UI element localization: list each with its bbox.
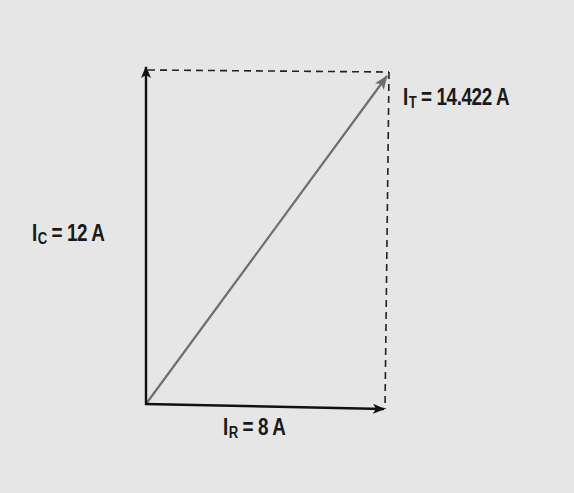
ic-label-symbol: I [32,220,37,246]
ir-label: IR = 8 A [223,414,285,441]
it-label: IT = 14.422 A [403,84,509,111]
dashed-right-line [385,72,389,409]
ic-label-value: = 12 A [47,220,105,246]
it-label-subscript: T [409,94,417,111]
resultant-it-arrow [146,76,387,404]
ir-label-value: = 8 A [238,414,286,440]
ir-label-subscript: R [229,424,238,441]
it-label-symbol: I [403,84,408,110]
it-label-value: = 14.422 A [416,84,509,110]
ir-horizontal-arrow [145,404,384,409]
dashed-top-line [148,70,389,72]
ic-label-subscript: C [38,230,47,247]
ir-label-symbol: I [223,414,228,440]
ic-label: IC = 12 A [32,220,104,247]
